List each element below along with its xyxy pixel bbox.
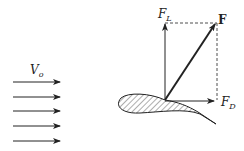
velocity-label: Vo xyxy=(30,64,44,76)
airfoil xyxy=(118,94,216,124)
lift-label: FL xyxy=(158,8,172,20)
free-stream-arrows xyxy=(13,82,60,141)
resultant-label: F xyxy=(218,14,227,26)
drag-label: FD xyxy=(221,96,236,108)
resultant-vector xyxy=(165,24,215,100)
